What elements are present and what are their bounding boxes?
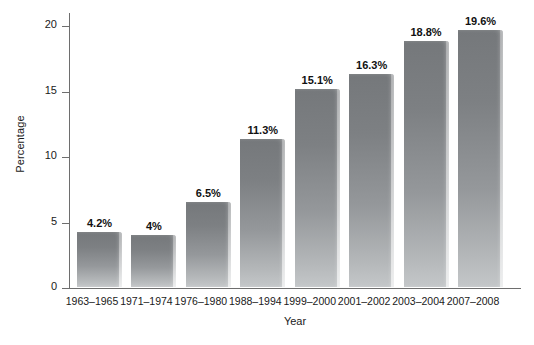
- x-axis-tick-label: 1999–2000: [280, 295, 340, 307]
- y-axis-line: [69, 13, 70, 288]
- bar[interactable]: 15.1%: [295, 89, 340, 287]
- bar-value-label: 4%: [146, 220, 162, 232]
- y-axis-tick-label: 15: [45, 84, 57, 96]
- y-axis-tick: 10: [62, 157, 70, 158]
- bar[interactable]: 16.3%: [349, 74, 394, 287]
- bar-value-label: 18.8%: [410, 26, 441, 38]
- y-axis-title-text: Percentage: [14, 115, 26, 172]
- bar[interactable]: 19.6%: [458, 30, 503, 287]
- x-axis-title: Year: [69, 315, 521, 327]
- bar[interactable]: 4%: [131, 235, 176, 287]
- y-axis-title: Percentage: [8, 0, 32, 288]
- bar-value-label: 11.3%: [247, 124, 278, 136]
- x-axis-tick-label: 1963–1965: [62, 295, 122, 307]
- bar[interactable]: 4.2%: [77, 232, 122, 287]
- bar-value-label: 6.5%: [196, 187, 221, 199]
- bar-value-label: 19.6%: [465, 15, 496, 27]
- bar[interactable]: 6.5%: [186, 202, 231, 287]
- bar-value-label: 4.2%: [87, 217, 112, 229]
- y-axis-tick: 0: [62, 288, 70, 289]
- x-axis-line: [69, 288, 521, 289]
- bar-value-label: 15.1%: [302, 74, 333, 86]
- y-axis-tick: 15: [62, 92, 70, 93]
- x-axis-tick-label: 1971–1974: [116, 295, 176, 307]
- y-axis-tick: 5: [62, 223, 70, 224]
- y-axis-tick-label: 0: [51, 280, 57, 292]
- bar[interactable]: 11.3%: [240, 139, 285, 287]
- bar-chart: Percentage 05101520 4.2%4%6.5%11.3%15.1%…: [0, 0, 534, 345]
- x-axis-tick-label: 2007–2008: [443, 295, 503, 307]
- bar[interactable]: 18.8%: [404, 41, 449, 287]
- x-axis-tick-label: 2003–2004: [389, 295, 449, 307]
- bar-value-label: 16.3%: [356, 59, 387, 71]
- y-axis-tick-label: 10: [45, 149, 57, 161]
- x-axis-title-text: Year: [284, 315, 306, 327]
- y-axis-tick-label: 20: [45, 18, 57, 30]
- x-axis-tick-label: 2001–2002: [334, 295, 394, 307]
- x-axis-tick-label: 1988–1994: [225, 295, 285, 307]
- x-axis-tick-label: 1976–1980: [171, 295, 231, 307]
- y-axis-tick: 20: [62, 26, 70, 27]
- plot-area: 05101520 4.2%4%6.5%11.3%15.1%16.3%18.8%1…: [69, 13, 521, 288]
- y-axis-tick-label: 5: [51, 215, 57, 227]
